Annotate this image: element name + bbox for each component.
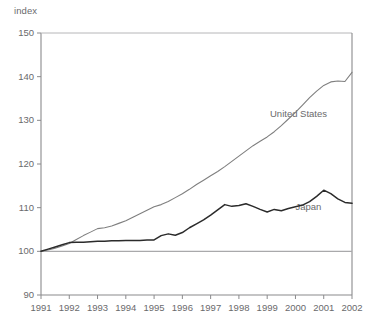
chart-plot-area [0, 0, 384, 323]
axis-group [37, 33, 352, 299]
series-line-japan [41, 190, 352, 251]
chart-container: index 15014013012011010090 1991199219931… [0, 0, 384, 323]
series-lines-group [41, 72, 352, 251]
